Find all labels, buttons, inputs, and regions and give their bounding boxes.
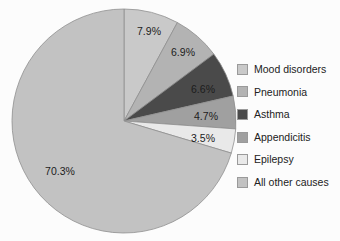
legend-item-label: All other causes [254, 177, 329, 188]
pie-chart-figure: 7.9%6.9%6.6%4.7%3.5%70.3% Mood disorders… [0, 0, 340, 241]
legend-item[interactable]: Mood disorders [237, 58, 340, 81]
pie-slice-value-label: 6.6% [191, 83, 215, 95]
legend-color-swatch-icon [237, 132, 248, 143]
legend-item[interactable]: All other causes [237, 171, 340, 194]
legend-color-swatch-icon [237, 109, 248, 120]
legend-item-label: Epilepsy [254, 154, 294, 165]
pie-slice-value-label: 7.9% [137, 25, 161, 37]
legend-item[interactable]: Asthma [237, 103, 340, 126]
legend-color-swatch-icon [237, 154, 248, 165]
legend-color-swatch-icon [237, 86, 248, 97]
legend-item-label: Appendicitis [254, 132, 311, 143]
legend-item[interactable]: Epilepsy [237, 148, 340, 171]
pie-slice-value-label: 3.5% [191, 132, 215, 144]
legend-item-label: Mood disorders [254, 64, 326, 75]
legend-item[interactable]: Pneumonia [237, 81, 340, 104]
pie-slice-value-label: 70.3% [45, 165, 75, 177]
pie-slice-value-label: 4.7% [194, 110, 218, 122]
legend-color-swatch-icon [237, 177, 248, 188]
legend-item[interactable]: Appendicitis [237, 126, 340, 149]
legend-color-swatch-icon [237, 64, 248, 75]
legend-item-label: Pneumonia [254, 87, 307, 98]
legend-item-label: Asthma [254, 109, 290, 120]
pie-slice-value-label: 6.9% [171, 46, 195, 58]
chart-legend: Mood disordersPneumoniaAsthmaAppendiciti… [237, 58, 340, 194]
